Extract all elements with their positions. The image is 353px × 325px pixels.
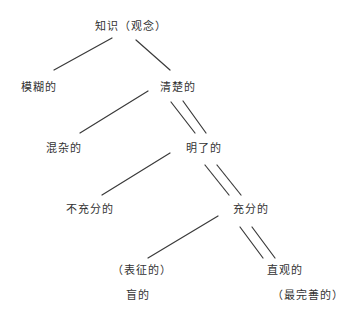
edge-clear-to-confused bbox=[80, 91, 148, 133]
edge-distinct-to-adequate-a bbox=[205, 165, 229, 195]
edge-clear-to-distinct-a bbox=[171, 102, 195, 133]
edge-root-to-clear bbox=[136, 40, 170, 70]
node-knowledge-root: 知识（观念） bbox=[95, 21, 167, 33]
node-confused: 混杂的 bbox=[46, 143, 82, 155]
node-blind: 盲的 bbox=[126, 290, 150, 302]
edge-adequate-to-intuitive-b bbox=[252, 227, 275, 258]
node-symbolic: （表征的） bbox=[112, 265, 172, 277]
edge-adequate-to-symbolic bbox=[148, 216, 218, 258]
node-clear: 清楚的 bbox=[160, 82, 196, 94]
node-vague: 模糊的 bbox=[21, 82, 57, 94]
node-intuitive: 直观的 bbox=[267, 265, 303, 277]
edge-root-to-vague bbox=[54, 38, 112, 70]
node-distinct: 明了的 bbox=[186, 143, 222, 155]
knowledge-classification-diagram: 知识（观念） 模糊的 清楚的 混杂的 明了的 不充分的 充分的 （表征的） 盲的… bbox=[0, 0, 353, 325]
node-most-perfect: （最完善的） bbox=[272, 290, 344, 302]
edge-clear-to-distinct-b bbox=[183, 101, 206, 133]
edge-distinct-to-adequate-b bbox=[217, 165, 241, 195]
edge-adequate-to-intuitive-a bbox=[240, 227, 263, 258]
node-adequate: 充分的 bbox=[233, 204, 269, 216]
node-inadequate: 不充分的 bbox=[66, 204, 114, 216]
edge-distinct-to-inadequate bbox=[102, 153, 170, 195]
